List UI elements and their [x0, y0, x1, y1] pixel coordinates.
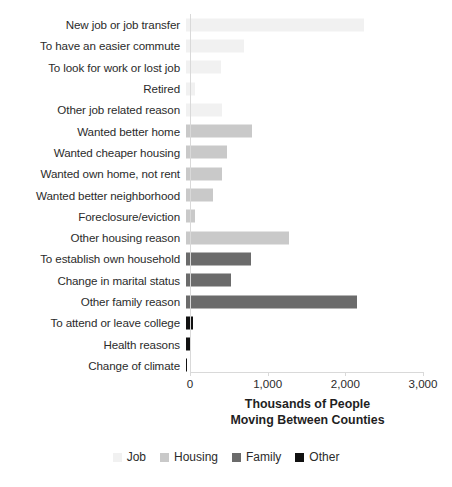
- bar-track: [186, 14, 452, 35]
- chart-row: Wanted own home, not rent: [0, 163, 452, 184]
- legend-item-other[interactable]: Other: [295, 450, 339, 464]
- chart-row: Retired: [0, 78, 452, 99]
- x-axis-line: [190, 372, 423, 373]
- category-label: Wanted own home, not rent: [0, 167, 186, 180]
- x-axis-tick-labels: 01,0002,0003,000: [0, 377, 452, 393]
- bar-other[interactable]: [186, 359, 187, 372]
- category-label: Foreclosure/eviction: [0, 210, 186, 223]
- category-label: Health reasons: [0, 338, 186, 351]
- category-label: To establish own household: [0, 252, 186, 265]
- plot-area: New job or job transferTo have an easier…: [0, 14, 452, 374]
- bar-family[interactable]: [186, 295, 357, 308]
- bar-track: [186, 78, 452, 99]
- bar-track: [186, 312, 452, 333]
- x-axis-tick: [190, 372, 191, 376]
- x-axis-tick-label: 0: [187, 377, 193, 391]
- x-axis-title-line-2: Moving Between Counties: [190, 412, 425, 428]
- bar-track: [186, 333, 452, 354]
- legend-item-housing[interactable]: Housing: [160, 450, 218, 464]
- x-axis-tick-label: 3,000: [408, 377, 437, 391]
- chart-row: Wanted cheaper housing: [0, 142, 452, 163]
- category-label: To attend or leave college: [0, 316, 186, 329]
- category-label: Other job related reason: [0, 103, 186, 116]
- bar-housing[interactable]: [186, 167, 222, 180]
- category-label: Change in marital status: [0, 274, 186, 287]
- chart-row: Change in marital status: [0, 270, 452, 291]
- chart-row: Foreclosure/eviction: [0, 206, 452, 227]
- bar-track: [186, 248, 452, 269]
- legend-item-family[interactable]: Family: [232, 450, 281, 464]
- chart-row: To establish own household: [0, 248, 452, 269]
- chart-row: Other job related reason: [0, 99, 452, 120]
- legend-label: Housing: [174, 450, 218, 464]
- legend-swatch-icon: [295, 453, 304, 462]
- bar-family[interactable]: [186, 274, 231, 287]
- legend-label: Family: [246, 450, 281, 464]
- x-axis-tick: [423, 372, 424, 376]
- bar-track: [186, 35, 452, 56]
- bar-job[interactable]: [186, 103, 222, 116]
- x-axis-tick-label: 1,000: [253, 377, 282, 391]
- x-axis-tick: [268, 372, 269, 376]
- bar-track: [186, 99, 452, 120]
- bar-job[interactable]: [186, 39, 244, 52]
- category-label: Other housing reason: [0, 231, 186, 244]
- bar-track: [186, 142, 452, 163]
- y-axis-line: [190, 14, 191, 372]
- legend-swatch-icon: [160, 453, 169, 462]
- chart-row: New job or job transfer: [0, 14, 452, 35]
- bar-track: [186, 227, 452, 248]
- x-axis-tick: [345, 372, 346, 376]
- x-axis-tick-label: 2,000: [331, 377, 360, 391]
- category-label: Change of climate: [0, 359, 186, 372]
- chart-row: Other family reason: [0, 291, 452, 312]
- bar-track: [186, 120, 452, 141]
- bar-housing[interactable]: [186, 125, 252, 138]
- bar-track: [186, 184, 452, 205]
- category-label: Wanted better home: [0, 125, 186, 138]
- bar-track: [186, 291, 452, 312]
- bar-job[interactable]: [186, 61, 221, 74]
- category-label: To look for work or lost job: [0, 61, 186, 74]
- category-label: Retired: [0, 82, 186, 95]
- chart-row: Wanted better neighborhood: [0, 184, 452, 205]
- chart-row: To have an easier commute: [0, 35, 452, 56]
- legend-item-job[interactable]: Job: [113, 450, 146, 464]
- bar-job[interactable]: [186, 18, 364, 31]
- chart-row: Health reasons: [0, 333, 452, 354]
- x-axis-title-line-1: Thousands of People: [190, 396, 425, 412]
- category-label: To have an easier commute: [0, 39, 186, 52]
- chart-row: To look for work or lost job: [0, 57, 452, 78]
- bar-track: [186, 57, 452, 78]
- bar-family[interactable]: [186, 252, 251, 265]
- category-label: Other family reason: [0, 295, 186, 308]
- legend-label: Other: [309, 450, 339, 464]
- chart-row: Wanted better home: [0, 120, 452, 141]
- bar-track: [186, 163, 452, 184]
- legend-swatch-icon: [232, 453, 241, 462]
- bar-chart: New job or job transferTo have an easier…: [0, 0, 452, 487]
- chart-legend: JobHousingFamilyOther: [0, 450, 452, 464]
- category-label: Wanted better neighborhood: [0, 189, 186, 202]
- legend-swatch-icon: [113, 453, 122, 462]
- bar-housing[interactable]: [186, 146, 227, 159]
- bar-track: [186, 270, 452, 291]
- category-label: New job or job transfer: [0, 18, 186, 31]
- x-axis-title: Thousands of People Moving Between Count…: [190, 396, 425, 428]
- chart-row: Other housing reason: [0, 227, 452, 248]
- chart-row: To attend or leave college: [0, 312, 452, 333]
- bar-housing[interactable]: [186, 231, 289, 244]
- legend-label: Job: [127, 450, 146, 464]
- bar-track: [186, 206, 452, 227]
- bar-rows: New job or job transferTo have an easier…: [0, 14, 452, 376]
- category-label: Wanted cheaper housing: [0, 146, 186, 159]
